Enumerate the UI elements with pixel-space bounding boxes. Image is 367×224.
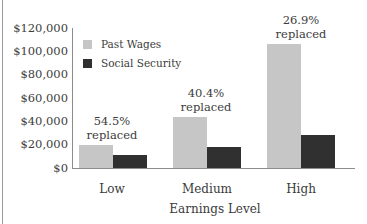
legend-item-past-wages: Past Wages (83, 38, 161, 50)
y-tick: $40,000 (20, 114, 68, 128)
annotation-text: replaced (72, 128, 152, 142)
annotation-text: replaced (166, 100, 246, 114)
legend-label: Social Security (101, 57, 181, 69)
annotation-high: 26.9% replaced (261, 13, 341, 41)
y-tick: $100,000 (13, 44, 68, 58)
bar-low-past-wages (79, 145, 113, 168)
bar-medium-social-security (207, 147, 241, 168)
bar-high-past-wages (267, 44, 301, 168)
annotation-text: replaced (261, 27, 341, 41)
x-axis-title: Earnings Level (140, 202, 290, 216)
annotation-percent: 40.4% (166, 86, 246, 100)
annotation-percent: 26.9% (261, 13, 341, 27)
y-axis-line (72, 28, 73, 169)
x-label-high: High (251, 182, 351, 196)
y-tick: $120,000 (13, 21, 68, 35)
legend-label: Past Wages (101, 38, 161, 50)
bar-low-social-security (113, 155, 147, 168)
legend-item-social-security: Social Security (83, 57, 181, 69)
y-tick: $20,000 (20, 137, 68, 151)
bar-high-social-security (301, 135, 335, 168)
x-axis-line (72, 168, 355, 169)
legend-swatch-dark (83, 59, 92, 68)
frame-border (2, 0, 3, 224)
annotation-medium: 40.4% replaced (166, 86, 246, 114)
legend-swatch-light (83, 40, 92, 49)
y-tick: $0 (53, 161, 68, 175)
x-label-low: Low (62, 182, 162, 196)
x-label-medium: Medium (157, 182, 257, 196)
bar-medium-past-wages (173, 117, 207, 168)
annotation-percent: 54.5% (72, 114, 152, 128)
y-tick: $80,000 (20, 67, 68, 81)
annotation-low: 54.5% replaced (72, 114, 152, 142)
y-tick: $60,000 (20, 91, 68, 105)
